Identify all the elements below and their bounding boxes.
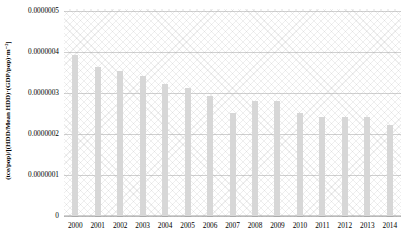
bars-layer — [64, 9, 401, 217]
bar-slot — [311, 9, 333, 217]
y-axis-tick-label: 0.0000003 — [28, 89, 59, 96]
bar[interactable] — [185, 88, 191, 217]
bar-slot — [86, 9, 108, 217]
bar-chart: (tce/pop)/[(HDD/Mean HDD)·(GDP/pop)·m⁻²]… — [0, 0, 413, 243]
bar-slot — [289, 9, 311, 217]
y-axis-tick-label: 0 — [55, 212, 59, 219]
bar[interactable] — [342, 117, 348, 217]
x-axis-tick-label: 2005 — [176, 219, 198, 229]
y-axis-tick-label: 0.0000004 — [28, 48, 59, 55]
bar[interactable] — [297, 113, 303, 217]
bar[interactable] — [387, 125, 393, 217]
x-axis-tick-label: 2010 — [289, 219, 311, 229]
bar[interactable] — [252, 101, 258, 217]
bar-slot — [109, 9, 131, 217]
plot-area — [64, 9, 401, 217]
bar[interactable] — [140, 76, 146, 217]
x-axis-tick-label: 2014 — [379, 219, 401, 229]
x-axis-line — [64, 216, 401, 217]
x-axis-tick-label: 2000 — [64, 219, 86, 229]
x-axis-tick-label: 2006 — [199, 219, 221, 229]
x-axis-tick-label: 2013 — [356, 219, 378, 229]
y-axis-tick-labels: 0.0000005 0.0000004 0.0000003 0.0000002 … — [16, 0, 62, 222]
x-axis-tick-label: 2003 — [131, 219, 153, 229]
bar-slot — [154, 9, 176, 217]
bar-slot — [379, 9, 401, 217]
x-axis-tick-label: 2012 — [334, 219, 356, 229]
y-axis-tick-label: 0.0000005 — [28, 7, 59, 14]
bar-slot — [266, 9, 288, 217]
bar-slot — [334, 9, 356, 217]
bar[interactable] — [207, 96, 213, 217]
bar-slot — [244, 9, 266, 217]
bar[interactable] — [95, 67, 101, 217]
bar[interactable] — [230, 113, 236, 217]
y-axis-title-text: (tce/pop)/[(HDD/Mean HDD)·(GDP/pop)·m⁻²] — [4, 42, 11, 180]
x-axis-tick-labels: 2000 2001 2002 2003 2004 2005 2006 2007 … — [64, 219, 401, 235]
bar-slot — [176, 9, 198, 217]
y-axis-title: (tce/pop)/[(HDD/Mean HDD)·(GDP/pop)·m⁻²] — [0, 0, 16, 222]
bar[interactable] — [162, 84, 168, 217]
bar-slot — [356, 9, 378, 217]
y-axis-tick-label: 0.0000002 — [28, 130, 59, 137]
bar[interactable] — [72, 55, 78, 217]
bar[interactable] — [274, 101, 280, 217]
x-axis-tick-label: 2004 — [154, 219, 176, 229]
y-axis-tick-label: 0.0000001 — [28, 171, 59, 178]
x-axis-tick-label: 2001 — [86, 219, 108, 229]
bar[interactable] — [364, 117, 370, 217]
x-axis-tick-label: 2008 — [244, 219, 266, 229]
x-axis-tick-label: 2002 — [109, 219, 131, 229]
bar-slot — [221, 9, 243, 217]
bar[interactable] — [117, 71, 123, 217]
bar-slot — [64, 9, 86, 217]
bar[interactable] — [319, 117, 325, 217]
bar-slot — [131, 9, 153, 217]
bar-slot — [199, 9, 221, 217]
x-axis-tick-label: 2011 — [311, 219, 333, 229]
x-axis-tick-label: 2007 — [221, 219, 243, 229]
x-axis-tick-label: 2009 — [266, 219, 288, 229]
